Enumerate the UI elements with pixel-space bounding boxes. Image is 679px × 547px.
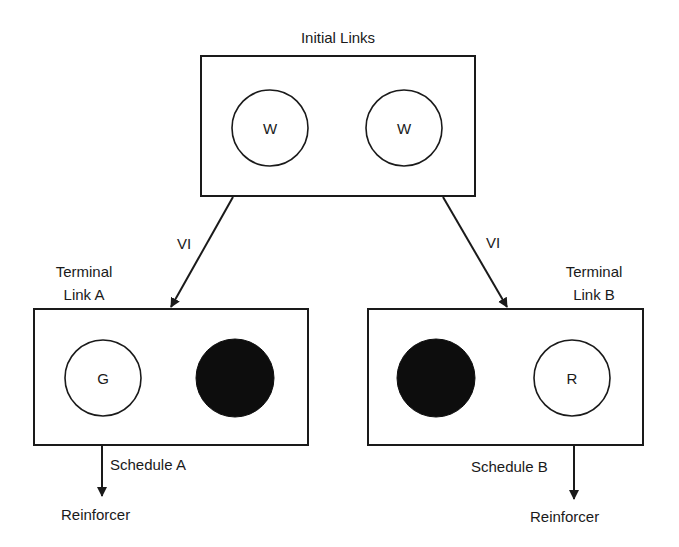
terminal-b-title-line2: Link B <box>573 286 615 303</box>
schedule-b-label: Schedule B <box>471 458 548 475</box>
initial-key-left: W <box>232 90 308 166</box>
terminal-b-key-right-label: R <box>567 370 578 387</box>
dark-key-icon <box>196 339 274 417</box>
arrow-to-terminal-a <box>171 197 233 307</box>
terminal-b-key-right: R <box>534 340 610 416</box>
terminal-a-title-line1: Terminal <box>56 263 113 280</box>
terminal-a-title-line2: Link A <box>64 286 105 303</box>
terminal-a-key-left: G <box>65 340 141 416</box>
terminal-b-title-line1: Terminal <box>566 263 623 280</box>
initial-links-title: Initial Links <box>301 29 375 46</box>
arrow-to-terminal-b <box>443 197 507 307</box>
vi-label-right: VI <box>486 234 500 251</box>
initial-key-right: W <box>366 90 442 166</box>
reinforcer-b-label: Reinforcer <box>530 508 599 525</box>
concurrent-chains-diagram: Initial Links W W VI VI Terminal Link A … <box>0 0 679 547</box>
dark-key-icon <box>397 339 475 417</box>
vi-label-left: VI <box>177 235 191 252</box>
schedule-a-label: Schedule A <box>110 456 186 473</box>
reinforcer-a-label: Reinforcer <box>61 506 130 523</box>
terminal-a-key-left-label: G <box>97 370 109 387</box>
initial-key-left-label: W <box>263 120 278 137</box>
initial-key-right-label: W <box>397 120 412 137</box>
